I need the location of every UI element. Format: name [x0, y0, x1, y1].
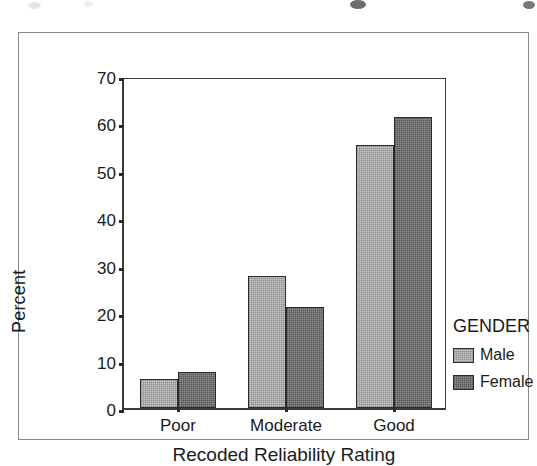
y-axis-tick: [119, 173, 124, 176]
y-axis-tick: [119, 268, 124, 271]
legend-label-female: Female: [480, 373, 533, 391]
bar-moderate-female: [286, 307, 324, 408]
scan-artifacts: [0, 0, 537, 20]
legend-items: MaleFemale: [453, 346, 537, 391]
legend-item-male: Male: [453, 346, 537, 364]
legend-title: GENDER: [453, 316, 537, 337]
y-axis-tick-label: 40: [72, 212, 116, 229]
y-axis-tick: [119, 315, 124, 318]
y-axis-tick: [119, 363, 124, 366]
y-axis-tick: [119, 410, 124, 413]
y-axis-tick: [119, 125, 124, 128]
bar-poor-male: [140, 379, 178, 408]
y-axis-title: Percent: [9, 270, 30, 333]
y-axis-tick-label: 60: [72, 117, 116, 134]
y-axis-tick-label: 10: [72, 355, 116, 372]
y-axis-tick: [119, 78, 124, 81]
y-axis-tick-label: 30: [72, 260, 116, 277]
legend-item-female: Female: [453, 373, 537, 391]
chart-legend: GENDER MaleFemale: [453, 316, 537, 400]
bar-poor-female: [178, 372, 216, 408]
legend-swatch-female: [453, 375, 474, 390]
x-axis-tick-label: Poor: [118, 416, 238, 436]
bar-moderate-male: [248, 276, 286, 408]
bar-good-male: [356, 145, 394, 408]
y-axis-tick-label: 70: [72, 70, 116, 87]
x-axis-tick-label: Good: [334, 416, 454, 436]
x-axis-tick-label: Moderate: [226, 416, 346, 436]
y-axis-tick-label: 50: [72, 165, 116, 182]
bar-good-female: [394, 117, 432, 408]
plot-area: 010203040506070PoorModerateGood: [122, 78, 446, 410]
legend-swatch-male: [453, 348, 474, 363]
y-axis-tick-label: 20: [72, 307, 116, 324]
chart-figure-frame: 010203040506070PoorModerateGood Percent …: [18, 32, 529, 440]
y-axis-tick: [119, 220, 124, 223]
legend-label-male: Male: [480, 346, 515, 364]
x-axis-title: Recoded Reliability Rating: [122, 444, 446, 466]
y-axis-tick-label: 0: [72, 402, 116, 419]
